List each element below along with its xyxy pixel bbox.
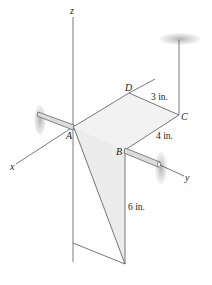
point-a-label: A bbox=[65, 130, 73, 141]
dimension-dc-label: 3 in. bbox=[151, 92, 168, 102]
y-axis-label: y bbox=[184, 172, 190, 183]
rod-b-end bbox=[157, 162, 160, 167]
edge-bottom bbox=[73, 243, 125, 264]
x-axis-label: x bbox=[9, 161, 15, 172]
bearing-shadow-left bbox=[34, 105, 46, 135]
dimension-vertical-label: 6 in. bbox=[128, 202, 145, 212]
rod-b bbox=[124, 148, 160, 167]
x-axis bbox=[16, 127, 73, 164]
bearing-shadow-top bbox=[160, 33, 200, 45]
point-d-label: D bbox=[124, 82, 133, 93]
d-extension-line bbox=[129, 79, 155, 93]
bearing-shadow-right bbox=[155, 152, 167, 184]
rod-assembly-diagram: z x y A B C D 3 in. 4 in. 6 in. bbox=[0, 0, 212, 285]
dimension-cb-label: 4 in. bbox=[156, 131, 173, 141]
point-c-label: C bbox=[181, 111, 188, 122]
z-axis-label: z bbox=[69, 5, 74, 16]
point-b-label: B bbox=[116, 146, 122, 157]
